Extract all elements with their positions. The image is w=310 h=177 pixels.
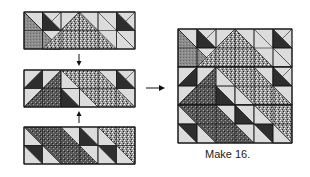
make-count-caption: Make 16. [205, 148, 250, 160]
up-arrow-icon [77, 111, 82, 123]
down-arrow-icon [77, 54, 82, 66]
block-row-bottom-strip [178, 105, 292, 143]
middle-strip [24, 70, 135, 107]
bottom-strip [24, 127, 135, 164]
right-arrow-icon [146, 85, 165, 91]
block-row-top-strip [178, 29, 292, 67]
strips-group [24, 12, 135, 164]
block-row-middle-strip [178, 67, 292, 105]
quilt-assembly-diagram [0, 0, 310, 177]
top-strip [24, 12, 135, 49]
finished-block [178, 29, 292, 143]
